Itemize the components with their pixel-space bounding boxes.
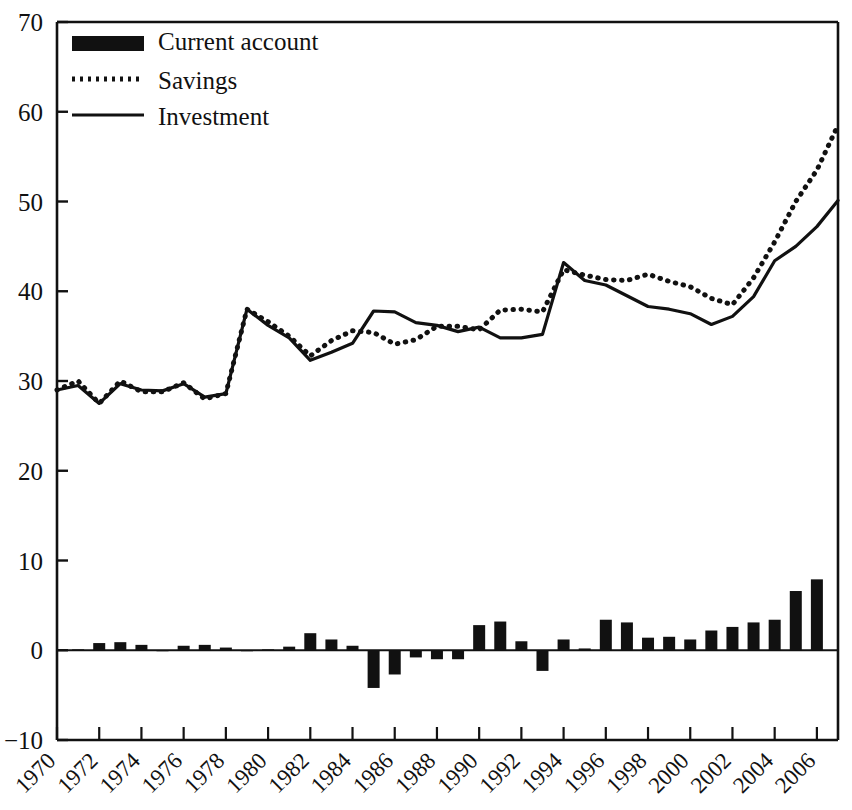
bar-current-account bbox=[325, 639, 337, 650]
bar-current-account bbox=[72, 649, 84, 650]
bar-current-account bbox=[536, 650, 548, 671]
bar-current-account bbox=[494, 622, 506, 651]
bar-current-account bbox=[178, 646, 190, 650]
bar-current-account bbox=[579, 648, 591, 650]
y-tick-label: 70 bbox=[18, 9, 43, 36]
bar-current-account bbox=[304, 633, 316, 650]
y-tick-label: 50 bbox=[18, 189, 43, 216]
bar-current-account bbox=[389, 650, 401, 674]
legend-label-investment: Investment bbox=[158, 103, 269, 130]
y-tick-label: 0 bbox=[31, 637, 44, 664]
chart-container: −10010203040506070 197019721974197619781… bbox=[0, 0, 852, 810]
bar-current-account bbox=[93, 643, 105, 650]
bar-current-account bbox=[600, 620, 612, 651]
bar-current-account bbox=[621, 622, 633, 650]
bar-current-account bbox=[473, 625, 485, 650]
legend-label-current-account: Current account bbox=[158, 28, 318, 55]
bar-current-account bbox=[748, 622, 760, 650]
bar-current-account bbox=[811, 579, 823, 650]
bar-current-account bbox=[431, 650, 443, 659]
bar-current-account bbox=[262, 649, 274, 650]
y-tick-label: −10 bbox=[4, 727, 43, 754]
bar-current-account bbox=[515, 641, 527, 650]
legend-label-savings: Savings bbox=[158, 67, 237, 94]
bar-current-account bbox=[283, 647, 295, 651]
bar-current-account bbox=[114, 642, 126, 650]
y-tick-label: 30 bbox=[18, 368, 43, 395]
bar-current-account bbox=[684, 639, 696, 650]
legend-swatch-current-account bbox=[72, 36, 144, 51]
y-tick-label: 60 bbox=[18, 99, 43, 126]
bar-current-account bbox=[642, 638, 654, 651]
y-tick-label: 20 bbox=[18, 458, 43, 485]
bar-current-account bbox=[452, 650, 464, 659]
bar-current-account bbox=[199, 645, 211, 650]
y-tick-label: 40 bbox=[18, 278, 43, 305]
bar-current-account bbox=[705, 631, 717, 651]
bar-current-account bbox=[135, 645, 147, 650]
bar-current-account bbox=[663, 637, 675, 650]
y-tick-label: 10 bbox=[18, 548, 43, 575]
bar-current-account bbox=[726, 627, 738, 650]
bar-current-account bbox=[347, 646, 359, 650]
bar-current-account bbox=[790, 591, 802, 650]
bar-current-account bbox=[241, 650, 253, 651]
bar-current-account bbox=[410, 650, 422, 657]
bar-current-account bbox=[220, 648, 232, 651]
savings-investment-current-account-chart: −10010203040506070 197019721974197619781… bbox=[0, 0, 852, 810]
bar-current-account bbox=[157, 650, 169, 651]
chart-background bbox=[0, 0, 852, 810]
bar-current-account bbox=[368, 650, 380, 688]
bar-current-account bbox=[558, 639, 570, 650]
bar-current-account bbox=[769, 620, 781, 651]
